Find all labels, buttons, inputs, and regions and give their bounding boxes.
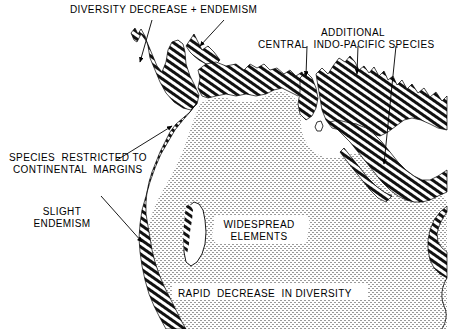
india-peninsula-margin: [298, 72, 318, 120]
north-arabian-margin: [198, 62, 306, 98]
label-species-restricted-line2: CONTINENTAL MARGINS: [13, 164, 143, 176]
arrow-slight-endemism: [101, 196, 142, 242]
label-widespread-elements-line2: ELEMENTS: [218, 231, 300, 243]
label-species-restricted-line1: SPECIES RESTRICTED TO: [9, 152, 147, 164]
label-widespread-elements-line1: WIDESPREAD: [218, 219, 300, 231]
label-additional-line1: ADDITIONAL: [265, 27, 441, 39]
label-slight-endemism-line1: SLIGHT: [24, 206, 100, 218]
label-diversity-decrease-endemism: DIVERSITY DECREASE + ENDEMISM: [70, 4, 257, 16]
label-slight-endemism-line2: ENDEMISM: [24, 218, 100, 230]
red-sea-margin: [131, 28, 199, 110]
persian-gulf-margin: [186, 34, 220, 66]
label-additional-line2: CENTRAL INDO-PACIFIC SPECIES: [258, 39, 435, 51]
sri-lanka-island: [315, 121, 323, 131]
indian-ocean-biogeography-figure: DIVERSITY DECREASE + ENDEMISM ADDITIONAL…: [0, 0, 450, 329]
label-rapid-decrease-in-diversity: RAPID DECREASE IN DIVERSITY: [178, 288, 352, 300]
arrow-diversity-right: [200, 20, 224, 46]
